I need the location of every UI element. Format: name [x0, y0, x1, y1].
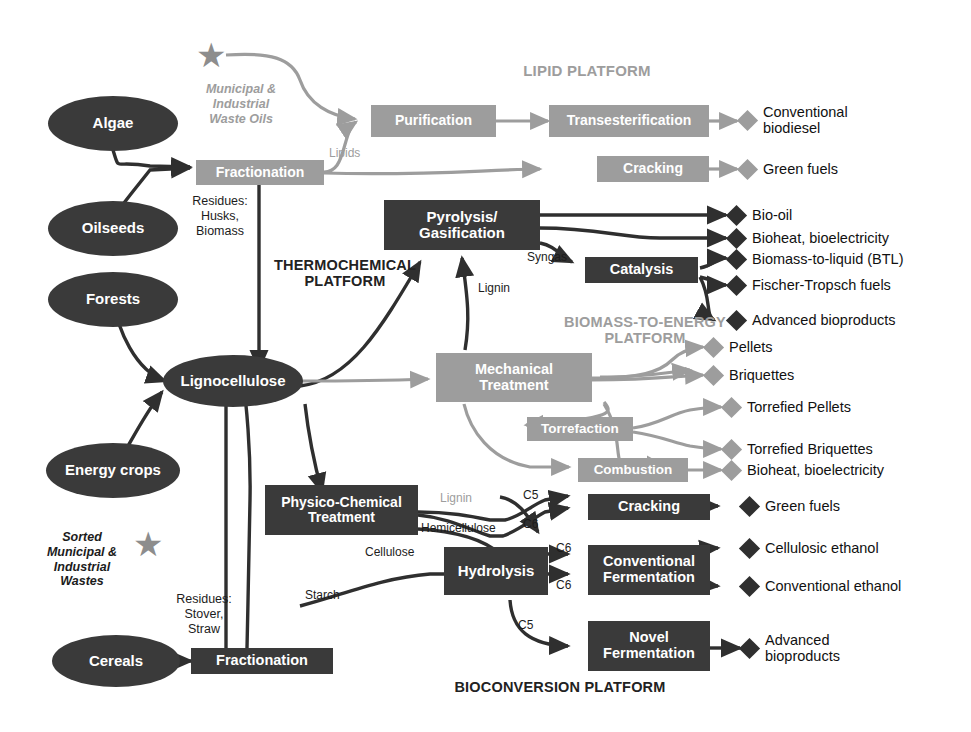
- platform-label-thermochemical: THERMOCHEMICAL PLATFORM: [240, 257, 450, 289]
- node-lignocellulose-label: Lignocellulose: [180, 373, 285, 389]
- flow-label-residues-husks-biomass: Residues: Husks, Biomass: [184, 194, 256, 238]
- note-sorted-wastes: Sorted Municipal & Industrial Wastes: [28, 530, 136, 589]
- flow-label-residues-stover-straw: Residues: Stover, Straw: [173, 592, 235, 636]
- diamond-icon: [726, 275, 747, 296]
- feedstock-forests-label: Forests: [86, 291, 140, 307]
- process-fractionation-top[interactable]: Fractionation: [196, 160, 324, 185]
- diamond-icon: [726, 205, 747, 226]
- feedstock-algae-label: Algae: [93, 115, 134, 131]
- feedstock-cereals[interactable]: Cereals: [52, 635, 180, 687]
- diamond-icon: [703, 365, 724, 386]
- diamond-icon: [726, 228, 747, 249]
- product-torrefied-briquettes: Torrefied Briquettes: [724, 441, 873, 457]
- process-novel-fermentation[interactable]: NovelFermentation: [588, 621, 710, 671]
- diamond-icon: [726, 249, 747, 270]
- product-bio-oil: Bio-oil: [729, 207, 792, 223]
- flow-label-c6-ferm-1: C6: [556, 541, 571, 555]
- product-green-fuels-bio: Green fuels: [742, 498, 840, 514]
- flow-label-c5-novel: C5: [518, 618, 533, 632]
- product-bioheat-bioelectricity-thermo: Bioheat, bioelectricity: [729, 230, 889, 246]
- product-fischer-tropsch-fuels: Fischer-Tropsch fuels: [729, 277, 891, 293]
- feedstock-energy-crops-label: Energy crops: [65, 462, 161, 478]
- process-torrefaction[interactable]: Torrefaction: [527, 417, 633, 441]
- diamond-icon: [739, 638, 760, 659]
- diamond-icon: [703, 337, 724, 358]
- product-green-fuels-lipid: Green fuels: [740, 161, 838, 177]
- product-bioheat-bioelectricity-combustion: Bioheat, bioelectricity: [724, 462, 884, 478]
- flow-label-hemicellulose: Hemicellulose: [421, 521, 496, 535]
- flow-label-cellulose: Cellulose: [365, 545, 414, 559]
- note-waste-oils: Municipal & Industrial Waste Oils: [186, 82, 296, 126]
- feedstock-forests[interactable]: Forests: [48, 272, 178, 327]
- feedstock-oilseeds-label: Oilseeds: [82, 220, 145, 236]
- product-pellets: Pellets: [706, 339, 773, 355]
- diamond-icon: [739, 538, 760, 559]
- flow-label-c5-cracking: C5: [523, 488, 538, 502]
- flow-label-lipids: Lipids: [329, 146, 360, 160]
- process-conventional-fermentation[interactable]: ConventionalFermentation: [588, 545, 710, 595]
- product-advanced-bioproducts-thermo: Advanced bioproducts: [729, 312, 896, 328]
- flow-label-syngas: Syngas: [527, 250, 567, 264]
- feedstock-energy-crops[interactable]: Energy crops: [46, 443, 180, 498]
- process-transesterification[interactable]: Transesterification: [549, 105, 709, 137]
- diamond-icon: [737, 159, 758, 180]
- diamond-icon: [726, 310, 747, 331]
- biorefinery-diagram: LIPID PLATFORM THERMOCHEMICAL PLATFORM B…: [0, 0, 971, 732]
- diamond-icon: [739, 576, 760, 597]
- flow-label-c6-cracking: C6: [523, 517, 538, 531]
- flow-label-starch: Starch: [305, 588, 340, 602]
- star-icon-sorted-wastes: ★: [133, 527, 163, 561]
- product-torrefied-pellets: Torrefied Pellets: [724, 399, 851, 415]
- process-cracking-bio[interactable]: Cracking: [588, 494, 710, 520]
- node-lignocellulose[interactable]: Lignocellulose: [163, 355, 303, 407]
- process-catalysis[interactable]: Catalysis: [585, 257, 698, 283]
- product-conventional-ethanol: Conventional ethanol: [742, 578, 901, 594]
- feedstock-cereals-label: Cereals: [89, 653, 143, 669]
- diamond-icon: [737, 110, 758, 131]
- product-conventional-biodiesel: Conventional biodiesel: [740, 104, 848, 136]
- process-cracking-lipid[interactable]: Cracking: [597, 156, 709, 182]
- product-cellulosic-ethanol: Cellulosic ethanol: [742, 540, 879, 556]
- feedstock-algae[interactable]: Algae: [48, 96, 178, 151]
- platform-label-lipid: LIPID PLATFORM: [472, 62, 702, 79]
- process-fractionation-bottom[interactable]: Fractionation: [191, 648, 333, 674]
- product-briquettes: Briquettes: [706, 367, 794, 383]
- diamond-icon: [739, 496, 760, 517]
- flow-label-c6-ferm-2: C6: [556, 578, 571, 592]
- process-hydrolysis[interactable]: Hydrolysis: [444, 547, 548, 595]
- star-icon-waste-oils: ★: [196, 38, 226, 72]
- flow-label-lignin-thermo: Lignin: [478, 281, 510, 295]
- feedstock-oilseeds[interactable]: Oilseeds: [48, 201, 178, 256]
- process-mechanical-treatment[interactable]: MechanicalTreatment: [436, 353, 592, 402]
- product-advanced-bioproducts-bio: Advanced bioproducts: [742, 632, 840, 664]
- process-physico-chemical-treatment[interactable]: Physico-ChemicalTreatment: [265, 485, 418, 535]
- platform-label-lipid-text: LIPID PLATFORM: [523, 62, 651, 79]
- diamond-icon: [721, 439, 742, 460]
- platform-label-bioconversion: BIOCONVERSION PLATFORM: [400, 679, 720, 695]
- process-combustion[interactable]: Combustion: [578, 458, 688, 482]
- product-biomass-to-liquid: Biomass-to-liquid (BTL): [729, 251, 904, 267]
- diamond-icon: [721, 397, 742, 418]
- process-purification[interactable]: Purification: [371, 105, 496, 137]
- diamond-icon: [721, 460, 742, 481]
- process-pyrolysis-gasification[interactable]: Pyrolysis/Gasification: [384, 200, 540, 250]
- flow-label-lignin-hydro: Lignin: [440, 491, 472, 505]
